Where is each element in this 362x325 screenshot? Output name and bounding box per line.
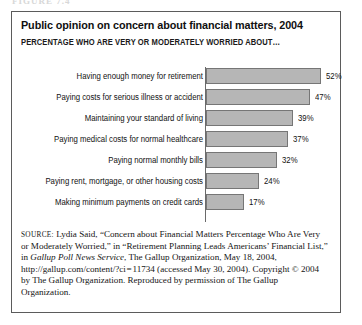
- source-note: SOURCE: Lydia Said, “Concern about Finan…: [21, 229, 329, 299]
- bar-category-label: Paying normal monthly bills: [40, 150, 203, 171]
- bar-and-value: 47%: [206, 89, 332, 105]
- bar-category-label: Paying costs for serious illness or acci…: [40, 87, 203, 108]
- bar: [206, 194, 244, 210]
- bar-row: Paying normal monthly bills32%: [12, 150, 342, 171]
- bar-row: Paying medical costs for normal healthca…: [12, 129, 342, 150]
- bar-value-label: 32%: [282, 152, 298, 168]
- bar-category-label: Paying rent, mortgage, or other housing …: [40, 171, 203, 192]
- bar: [206, 68, 321, 84]
- bar-value-label: 37%: [293, 131, 309, 147]
- bar-value-label: 52%: [326, 68, 342, 84]
- bar-and-value: 37%: [206, 131, 310, 147]
- bar-and-value: 17%: [206, 194, 265, 210]
- bar-row: Maintaining your standard of living39%: [12, 108, 342, 129]
- bar-category-label: Having enough money for retirement: [40, 66, 203, 87]
- bar-row: Making minimum payments on credit cards1…: [12, 192, 342, 213]
- bar-and-value: 24%: [206, 173, 281, 189]
- bar: [206, 131, 288, 147]
- bar-and-value: 32%: [206, 152, 299, 168]
- bar: [206, 110, 293, 126]
- bar-value-label: 47%: [315, 89, 331, 105]
- bar: [206, 173, 259, 189]
- bar-category-label: Paying medical costs for normal healthca…: [40, 129, 203, 150]
- bar-chart-plot-area: Having enough money for retirement52%Pay…: [12, 66, 342, 223]
- chart-title: Public opinion on concern about financia…: [21, 19, 303, 31]
- scan-artifact-text: FIGURE 7.4: [12, 0, 71, 6]
- bar-row: Paying rent, mortgage, or other housing …: [12, 171, 342, 192]
- bar-and-value: 39%: [206, 110, 314, 126]
- bar-value-label: 39%: [298, 110, 314, 126]
- bar-value-label: 17%: [249, 194, 265, 210]
- bar-category-label: Making minimum payments on credit cards: [40, 192, 203, 213]
- chart-subtitle: PERCENTAGE WHO ARE VERY OR MODERATELY WO…: [21, 37, 280, 47]
- bar: [206, 89, 310, 105]
- figure-frame: Public opinion on concern about financia…: [11, 11, 341, 313]
- bar-value-label: 24%: [264, 173, 280, 189]
- bar-and-value: 52%: [206, 68, 343, 84]
- bar: [206, 152, 277, 168]
- bar-row: Having enough money for retirement52%: [12, 66, 342, 87]
- source-label: SOURCE:: [21, 230, 54, 239]
- bar-category-label: Maintaining your standard of living: [40, 108, 203, 129]
- source-publication-title: Gallup Poll News Service: [30, 252, 124, 262]
- bar-row: Paying costs for serious illness or acci…: [12, 87, 342, 108]
